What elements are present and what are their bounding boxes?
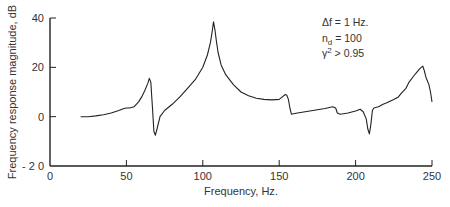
x-tick-label: 150 [270, 170, 288, 182]
x-tick-label: 200 [346, 170, 364, 182]
annotation-nd: nd = 100 [322, 32, 362, 47]
response-curve [81, 22, 432, 136]
annotation-coherence: γ2 > 0.95 [322, 46, 364, 59]
x-axis-title: Frequency, Hz. [204, 185, 278, 197]
y-axis-title: Frequency response magnitude, dB [6, 5, 18, 179]
x-tick-label: 50 [120, 170, 132, 182]
x-tick-label: 250 [423, 170, 441, 182]
x-tick-label: 100 [194, 170, 212, 182]
x-tick-label: 0 [47, 170, 53, 182]
y-tick-label: - 2 0 [22, 160, 44, 172]
frequency-response-chart: 050100150200250- 2 002040 Frequency resp… [0, 0, 450, 207]
y-tick-label: 20 [32, 61, 44, 73]
annotation-block: Δf = 1 Hz. nd = 100 γ2 > 0.95 [322, 16, 368, 59]
y-tick-label: 40 [32, 12, 44, 24]
y-tick-label: 0 [38, 111, 44, 123]
annotation-delta-f: Δf = 1 Hz. [322, 16, 368, 28]
axis-ticks: 050100150200250- 2 002040 [22, 12, 441, 182]
